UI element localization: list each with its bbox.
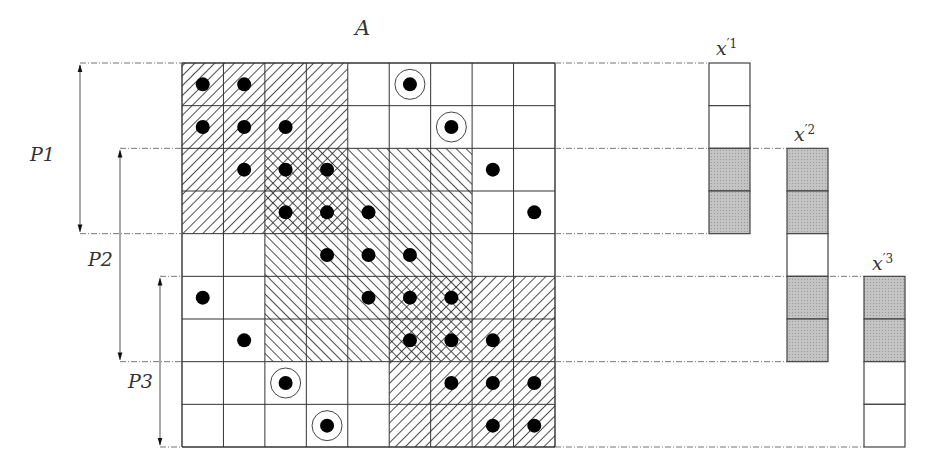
nonzero-dot [403,291,417,305]
nonzero-dot [486,376,500,390]
nonzero-dot [403,248,417,262]
vector-label-x3: x′3 [872,253,893,273]
nonzero-dot [444,376,458,390]
nonzero-dot [444,291,458,305]
nonzero-dot [444,333,458,347]
vector-cell-shaded [787,276,828,319]
partition-label-p3: P3 [128,372,153,391]
nonzero-dot [486,333,500,347]
block-partition-diagram [0,0,950,475]
matrix-label: A [355,18,370,39]
vector-cell-shaded [787,319,828,362]
nonzero-dot [279,120,293,134]
nonzero-dot [196,77,210,91]
nonzero-dot [486,419,500,433]
vector-cell-empty [787,234,828,277]
nonzero-dot [362,248,376,262]
circled-dot [444,120,458,134]
nonzero-dot [237,77,251,91]
nonzero-dot [279,163,293,177]
nonzero-dot [320,163,334,177]
nonzero-dot [527,205,541,219]
vector-cell-shaded [864,276,905,319]
nonzero-dot [527,419,541,433]
vector-cell-empty [864,362,905,405]
vector-cell-shaded [787,191,828,234]
vector-cell-shaded [787,148,828,191]
nonzero-dot [403,333,417,347]
nonzero-dot [527,376,541,390]
vector-cell-shaded [864,319,905,362]
vector-cell-empty [709,106,750,149]
nonzero-dot [196,120,210,134]
circled-dot [403,77,417,91]
nonzero-dot [320,205,334,219]
nonzero-dot [362,291,376,305]
nonzero-dot [279,205,293,219]
partition-label-p2: P2 [88,250,113,269]
vector-cell-empty [709,63,750,106]
nonzero-dot [320,248,334,262]
circled-dot [320,419,334,433]
vector-cell-shaded [709,191,750,234]
nonzero-dot [362,205,376,219]
vector-cell-empty [864,404,905,447]
vector-cell-shaded [709,148,750,191]
partition-label-p1: P1 [30,145,55,164]
circled-dot [279,376,293,390]
nonzero-dot [237,163,251,177]
vector-label-x1: x′1 [716,38,737,58]
nonzero-dot [196,291,210,305]
nonzero-dots [196,69,542,440]
vector-label-x2: x′2 [794,124,815,144]
nonzero-dot [237,333,251,347]
nonzero-dot [486,163,500,177]
nonzero-dot [237,120,251,134]
